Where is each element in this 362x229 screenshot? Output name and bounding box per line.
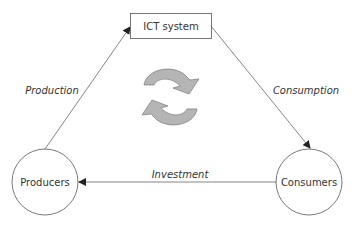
consumers-label: Consumers: [281, 177, 337, 188]
production-label: Production: [25, 85, 79, 96]
consumption-label: Consumption: [273, 85, 339, 96]
diagram-canvas: ICT system Producers Consumers Productio…: [0, 0, 362, 229]
ict-system-label: ICT system: [143, 21, 198, 32]
producers-label: Producers: [20, 177, 70, 188]
cycle-arrows-icon: [142, 69, 199, 125]
investment-label: Investment: [152, 169, 210, 180]
